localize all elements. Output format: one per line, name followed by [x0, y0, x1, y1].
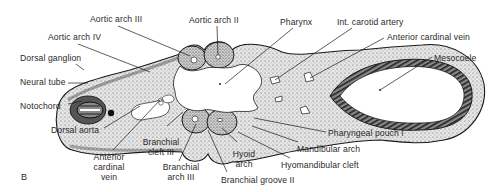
pharynx-cavity: [173, 64, 261, 112]
label-anterior-cardinal-vein-left-line1: Anterior: [86, 152, 132, 162]
label-hyomandibular-cleft: Hyomandibular cleft: [281, 160, 359, 170]
mesocoele-dot: [379, 89, 381, 91]
label-anterior-cardinal-vein-left-line2: cardinal: [86, 162, 132, 172]
label-pharyngeal-pouch-i: Pharyngeal pouch I: [328, 128, 404, 138]
label-dorsal-aorta: Dorsal aorta: [51, 125, 99, 135]
figure-letter: B: [21, 172, 27, 182]
label-dorsal-ganglion: Dorsal ganglion: [20, 53, 81, 63]
branchial-arch-iii-vessel: [192, 116, 198, 122]
label-branchial-arch-iii: Branchial arch III: [156, 162, 206, 182]
label-mandibular-arch: Mandibular arch: [297, 144, 360, 154]
label-notochord: Notochord: [20, 101, 61, 111]
label-branchial-arch-iii-line2: arch III: [156, 172, 206, 182]
label-branchial-cleft-iii: Branchial cleft III: [136, 137, 186, 157]
label-hyoid-arch-line1: Hyoid: [224, 149, 264, 159]
hyoid-arch-vessel: [218, 118, 223, 121]
label-aortic-arch-iii: Aortic arch III: [90, 14, 142, 24]
leader-dorsal-ganglion: [76, 64, 84, 70]
aortic-arch-ii-vessel: [216, 55, 220, 59]
label-int-carotid-artery: Int. carotid artery: [337, 17, 403, 27]
label-pharynx: Pharynx: [280, 17, 312, 27]
label-mesocoele: Mesocoele: [434, 53, 476, 63]
label-branchial-cleft-iii-line1: Branchial: [136, 137, 186, 147]
label-neural-tube: Neural tube: [20, 77, 66, 87]
label-aortic-arch-ii: Aortic arch II: [189, 15, 239, 25]
label-aortic-arch-iv: Aortic arch IV: [48, 32, 101, 42]
label-hyoid-arch-line2: arch: [224, 159, 264, 169]
label-anterior-cardinal-vein-left-line3: vein: [86, 172, 132, 182]
label-branchial-arch-iii-line1: Branchial: [156, 162, 206, 172]
hyoid-arch-lobe: [207, 109, 237, 135]
leader-aortic-arch-iii: [118, 26, 190, 56]
label-branchial-groove-ii: Branchial groove II: [221, 175, 295, 185]
pharynx-dot: [219, 83, 221, 85]
anterior-cardinal-vein-cavity: [162, 95, 174, 103]
label-branchial-cleft-iii-line2: cleft III: [136, 147, 186, 157]
label-anterior-cardinal-vein-right: Anterior cardinal vein: [387, 32, 470, 42]
leader-aortic-arch-iv: [78, 44, 150, 72]
aortic-arch-iii-vessel: [191, 57, 197, 63]
label-anterior-cardinal-vein-left: Anterior cardinal vein: [86, 152, 132, 182]
label-hyoid-arch: Hyoid arch: [224, 149, 264, 169]
notochord: [108, 110, 114, 116]
